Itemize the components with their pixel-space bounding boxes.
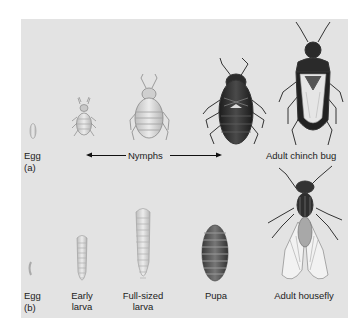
panel-a-tag: (a) [24,162,36,173]
label-a-adult: Adult chinch bug [266,150,336,161]
nymph-large-icon [203,58,266,144]
label-b-pupa: Pupa [205,290,227,301]
label-b-full-larva-line1: Full-sized [123,290,164,301]
label-b-full-larva-line2: larva [133,301,154,312]
illustrations [0,0,363,331]
housefly-egg-icon [30,262,32,275]
early-larva-icon [77,236,87,281]
pupa-icon [202,225,228,281]
label-a-nymphs: Nymphs [128,150,163,161]
label-b-adult: Adult housefly [274,290,334,301]
label-a-egg: Egg [24,150,41,161]
nymph-medium-icon [130,74,169,140]
panel-b-tag: (b) [24,302,36,313]
label-b-early-larva-line2: larva [72,301,93,312]
label-b-egg: Egg [24,290,41,301]
chinch-egg-icon [30,124,36,139]
full-sized-larva-icon [136,209,150,279]
label-b-early-larva-line1: Early [71,290,93,301]
nymph-small-icon [72,97,96,136]
adult-housefly-icon [268,166,342,279]
adult-chinch-bug-icon [279,22,343,145]
